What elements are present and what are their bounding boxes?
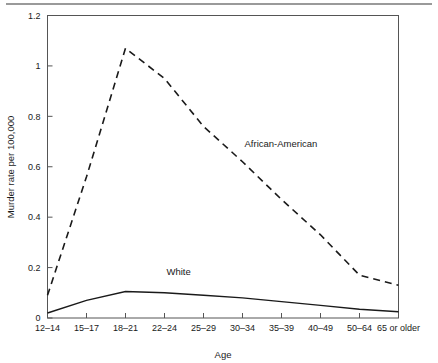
series-line-african-american [48,48,399,295]
x-tick-label: 22–24 [152,323,177,333]
x-tick-label: 65 or older [377,323,420,333]
x-tick-label: 30–34 [230,323,255,333]
x-tick-label: 35–39 [269,323,294,333]
y-tick-label: 1 [35,61,40,71]
y-tick-label: 0.4 [28,212,41,222]
line-chart: 00.20.40.60.811.2 12–1415–1718–2122–2425… [0,0,438,363]
x-tick-label: 50–64 [347,323,372,333]
y-tick-label: 0.6 [28,162,41,172]
x-tick-label: 25–29 [191,323,216,333]
chart-figure: 00.20.40.60.811.2 12–1415–1718–2122–2425… [0,0,438,363]
x-tick-label: 18–21 [113,323,138,333]
y-tick-label: 1.2 [28,11,41,21]
series-annotation-african-american: African-American [245,138,318,149]
plot-frame [48,16,399,319]
series-annotation-white: White [167,266,191,277]
x-tick-label: 15–17 [74,323,99,333]
x-tick-label: 40–49 [308,323,333,333]
y-axis-title: Murder rate per 100,000 [5,116,16,218]
y-axis: 00.20.40.60.811.2 [28,11,53,324]
series-layer [48,48,399,313]
y-tick-label: 0.2 [28,263,41,273]
x-axis: 12–1415–1718–2122–2425–2930–3435–3940–49… [35,313,420,333]
y-tick-label: 0.8 [28,112,41,122]
series-line-white [48,292,399,313]
x-axis-title: Age [215,349,232,360]
y-tick-label: 0 [35,313,40,323]
annotation-layer: African-AmericanWhite [167,138,318,278]
x-tick-label: 12–14 [35,323,60,333]
